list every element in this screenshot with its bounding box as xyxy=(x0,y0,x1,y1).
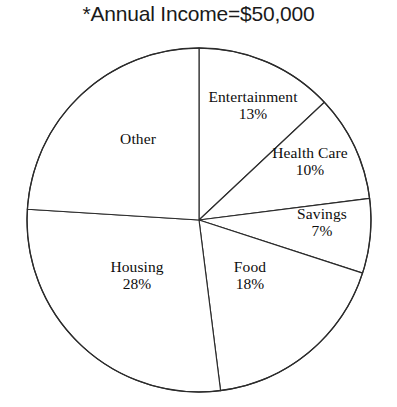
pie-label-entertainment: Entertainment13% xyxy=(208,88,297,123)
pie-slice-housing[interactable] xyxy=(27,209,221,392)
pie-label-percent: 7% xyxy=(297,222,347,239)
pie-label-food: Food18% xyxy=(234,258,266,293)
pie-label-other: Other xyxy=(120,130,156,147)
pie-label-name: Savings xyxy=(297,205,347,222)
pie-label-name: Housing xyxy=(110,258,163,275)
pie-label-percent: 13% xyxy=(208,105,297,122)
pie-label-savings: Savings7% xyxy=(297,205,347,240)
pie-label-name: Food xyxy=(234,258,266,275)
pie-label-name: Health Care xyxy=(272,144,348,161)
pie-chart-figure: *Annual Income=$50,000 Entertainment13%H… xyxy=(0,0,397,407)
pie-label-percent: 28% xyxy=(110,275,163,292)
pie-label-name: Other xyxy=(120,130,156,147)
pie-slice-other[interactable] xyxy=(27,48,199,220)
pie-label-percent: 18% xyxy=(234,275,266,292)
pie-chart-svg xyxy=(0,0,397,407)
pie-label-housing: Housing28% xyxy=(110,258,163,293)
pie-label-percent: 10% xyxy=(272,161,348,178)
pie-label-health-care: Health Care10% xyxy=(272,144,348,179)
pie-label-name: Entertainment xyxy=(208,88,297,105)
